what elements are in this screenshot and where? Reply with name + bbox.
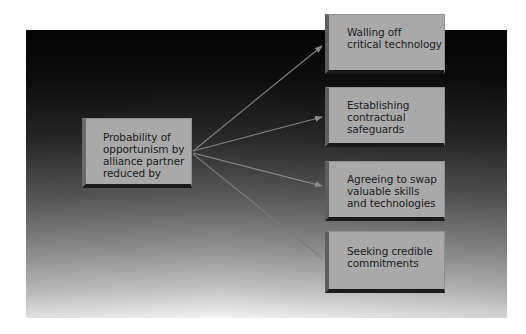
target-node-label: Agreeing to swap valuable skills and tec…	[347, 173, 437, 209]
target-node-credible-commitments: Seeking credible commitments	[325, 231, 445, 293]
target-node-label: Walling off critical technology	[347, 26, 442, 50]
target-node-contractual-safeguards: Establishing contractual safeguards	[325, 87, 445, 147]
source-node-label: Probability of opportunism by alliance p…	[103, 131, 184, 179]
target-node-label: Seeking credible commitments	[347, 245, 433, 269]
target-node-swap-skills: Agreeing to swap valuable skills and tec…	[325, 161, 445, 221]
target-node-label: Establishing contractual safeguards	[347, 99, 409, 135]
target-node-walling-off: Walling off critical technology	[325, 14, 445, 74]
source-node-opportunism: Probability of opportunism by alliance p…	[82, 118, 192, 188]
